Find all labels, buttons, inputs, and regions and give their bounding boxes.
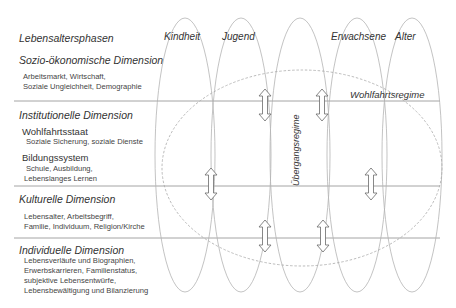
ellipse-alter [382,18,442,292]
dimension-title-institutional: Institutionelle Dimension [19,109,133,121]
dimension-title-individual: Individuelle Dimension [19,244,124,256]
dimension-item: Schule, Ausbildung, [26,164,93,174]
dimension-item: Soziale Sicherung, soziale Dienste [26,137,143,147]
double-arrow-icon [205,168,217,200]
phase-kindheit: Kindheit [164,31,200,42]
dimension-item: Lebensverläufe und Biographien, [24,256,135,266]
dimension-item: Lebensbewältigung und Bilanzierung [24,286,148,296]
regime-label-transition: Übergangsregime [291,114,301,186]
double-arrow-icon [259,220,271,252]
double-arrow-icon [317,220,329,252]
regime-label-welfare: Wohlfahrtsregime [350,89,424,100]
dimension-item: Lebenslanges Lernen [24,174,97,184]
ellipse-jugend [211,18,271,292]
dimension-item: subjektive Lebensentwürfe, [24,276,116,286]
ellipse-erwachsene [327,18,387,292]
dimension-title-cultural: Kulturelle Dimension [19,193,115,205]
phase-erwachsene: Erwachsene [331,31,386,42]
phase-alter: Alter [395,31,416,42]
dimension-item: Lebensalter, Arbeitsbegriff, [24,212,114,222]
dimension-item: Arbeitsmarkt, Wirtschaft, [23,72,106,82]
double-arrow-icon [365,168,377,200]
group-title-wohlfahrtsstaat: Wohlfahrtsstaat [22,126,88,137]
dimension-title-socio-economic: Sozio-ökonomische Dimension [19,54,163,66]
dimension-item: Familie, Individuum, Religion/Kirche [24,222,145,232]
double-arrow-icon [316,89,328,121]
dimension-item: Soziale Ungleichheit, Demographie [23,82,142,92]
row-label-lebensaltersphasen: Lebensaltersphasen [19,32,114,44]
phase-jugend: Jugend [222,31,255,42]
ellipse-kindheit [155,18,215,292]
group-title-bildungssystem: Bildungssystem [22,152,89,163]
dimension-item: Erwerbskarrieren, Familienstatus, [24,266,137,276]
